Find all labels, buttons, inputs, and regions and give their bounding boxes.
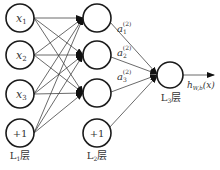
layer-1: x1 x2 x3 +1 L1层 xyxy=(6,4,34,162)
layer-2: +1 L2层 xyxy=(83,4,111,162)
layer-3: L3层 xyxy=(157,62,183,104)
edges-layer1-to-layer2 xyxy=(34,18,83,133)
neural-network-diagram: x1 x2 x3 +1 L1层 +1 L2层 a1(2) a2(2) a3(2) xyxy=(0,0,220,170)
input-node-x2: x2 xyxy=(6,41,34,69)
hidden-node-1 xyxy=(83,4,111,32)
output-node xyxy=(157,62,183,88)
bias-node-layer2: +1 xyxy=(83,119,111,147)
activation-a3: a3(2) xyxy=(117,68,131,83)
activation-a2: a2(2) xyxy=(117,44,131,59)
layer-3-label: L3层 xyxy=(161,92,181,104)
hidden-node-2 xyxy=(83,41,111,69)
input-node-x3: x3 xyxy=(6,80,34,108)
activation-a1: a1(2) xyxy=(117,20,131,35)
bias-node-layer1: +1 xyxy=(6,119,34,147)
layer-1-label: L1层 xyxy=(10,150,30,162)
hidden-node-3 xyxy=(83,79,111,107)
input-node-x1: x1 xyxy=(6,4,34,32)
svg-text:+1: +1 xyxy=(90,128,105,139)
output-label: hW,b(x) xyxy=(187,80,215,91)
svg-text:+1: +1 xyxy=(13,128,28,139)
activation-labels: a1(2) a2(2) a3(2) xyxy=(117,20,131,83)
layer-2-label: L2层 xyxy=(87,150,107,162)
